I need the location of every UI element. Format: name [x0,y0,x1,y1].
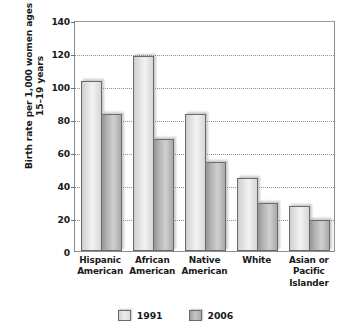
y-tick-label: 80 [40,115,70,126]
bar-group [289,22,330,251]
legend-swatch-icon [189,310,202,321]
category-label-line: Hispanic [74,255,126,266]
chart-legend: 19912006 [0,310,351,321]
bar[interactable] [309,220,330,251]
bar-group [133,22,174,251]
category-label-line: American [126,266,178,277]
x-axis-category-label: Asian orPacificIslander [283,255,335,289]
category-label-line: Pacific [283,266,335,277]
bar[interactable] [289,206,310,251]
legend-swatch-icon [118,310,131,321]
bar[interactable] [185,114,206,251]
x-axis-category-label: AfricanAmerican [126,255,178,278]
category-label-line: Native [178,255,230,266]
bar-group [185,22,226,251]
y-axis-title-line-1: Birth rate per 1,000 women ages [24,3,35,169]
bar-group [237,22,278,251]
bar[interactable] [81,81,102,251]
y-tick-label: 20 [40,214,70,225]
bar-chart: Birth rate per 1,000 women ages 15–19 ye… [0,0,351,331]
x-axis-category-labels: HispanicAmericanAfricanAmericanNativeAme… [74,255,335,303]
bars-layer [75,22,334,251]
legend-item[interactable]: 2006 [189,310,234,321]
category-label-line: Islander [283,278,335,289]
y-tick-label: 120 [40,49,70,60]
category-label-line: American [74,266,126,277]
bar[interactable] [153,139,174,251]
y-tick-label: 100 [40,82,70,93]
y-tick-label: 0 [40,247,70,258]
x-axis-category-label: White [231,255,283,266]
plot-area [74,21,335,252]
bar[interactable] [205,162,226,251]
bar[interactable] [133,56,154,251]
legend-item[interactable]: 1991 [118,310,163,321]
bar[interactable] [257,203,278,251]
category-label-line: Asian or [283,255,335,266]
y-tick-label: 60 [40,148,70,159]
y-tick-label: 140 [40,16,70,27]
bar[interactable] [101,114,122,251]
x-axis-category-label: HispanicAmerican [74,255,126,278]
y-tick-label: 40 [40,181,70,192]
legend-label: 2006 [208,310,234,321]
category-label-line: White [231,255,283,266]
y-axis-tick-labels: 020406080100120140 [38,0,70,331]
category-label-line: African [126,255,178,266]
legend-label: 1991 [137,310,163,321]
bar[interactable] [237,178,258,251]
bar-group [81,22,122,251]
x-axis-category-label: NativeAmerican [178,255,230,278]
category-label-line: American [178,266,230,277]
